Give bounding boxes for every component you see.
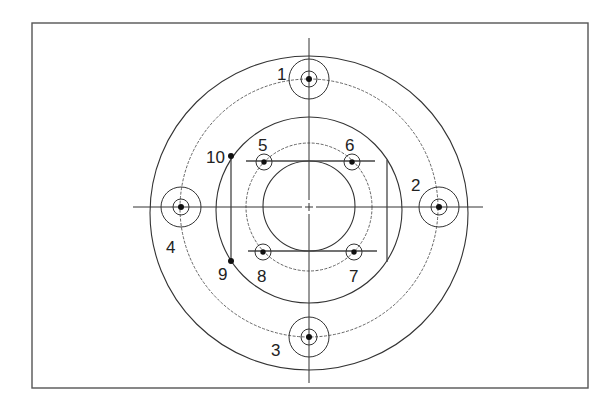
bolt-1-center-dot bbox=[306, 76, 312, 82]
label-4: 4 bbox=[166, 238, 175, 257]
label-7: 7 bbox=[349, 267, 358, 286]
flange-drawing: 1 2 3 4 5 6 7 8 9 10 bbox=[0, 0, 616, 406]
label-5: 5 bbox=[258, 136, 267, 155]
label-2: 2 bbox=[411, 176, 420, 195]
point-9 bbox=[228, 258, 234, 264]
label-8: 8 bbox=[257, 267, 266, 286]
label-10: 10 bbox=[206, 148, 225, 167]
label-6: 6 bbox=[345, 136, 354, 155]
label-1: 1 bbox=[277, 65, 286, 84]
label-9: 9 bbox=[218, 265, 227, 284]
bolt-2-center-dot bbox=[436, 204, 442, 210]
point-10 bbox=[228, 153, 234, 159]
bolt-3-center-dot bbox=[306, 334, 312, 340]
label-3: 3 bbox=[271, 341, 280, 360]
bolt-4-center-dot bbox=[178, 204, 184, 210]
